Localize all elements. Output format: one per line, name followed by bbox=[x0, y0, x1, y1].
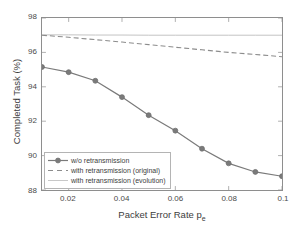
legend-label: with retransmission (original) bbox=[71, 166, 160, 175]
legend-swatch-solid-icon bbox=[47, 176, 69, 185]
data-point bbox=[42, 65, 44, 70]
data-point bbox=[173, 128, 178, 133]
legend-swatch-solid-marker-icon bbox=[47, 156, 69, 165]
y-axis-tick-label: 98 bbox=[11, 13, 37, 21]
data-point bbox=[226, 161, 231, 166]
data-point bbox=[66, 70, 71, 75]
chart-figure: 889092949698 0.020.040.060.080.1 Packet … bbox=[0, 0, 295, 232]
x-axis-tick-label: 0.02 bbox=[50, 195, 86, 203]
legend-item-wo-retransmission: w/o retransmission bbox=[47, 156, 167, 165]
data-point bbox=[120, 95, 125, 100]
y-axis-tick-label: 88 bbox=[11, 187, 37, 195]
x-axis-tick-label: 0.1 bbox=[265, 195, 295, 203]
x-axis-title-subscript: e bbox=[202, 215, 206, 222]
data-point bbox=[280, 174, 282, 179]
legend-label: with retransmission (evolution) bbox=[71, 176, 166, 185]
series-line-with-retransmission-original bbox=[42, 35, 282, 57]
data-point bbox=[200, 146, 205, 151]
x-axis-tick-label: 0.08 bbox=[211, 195, 247, 203]
data-point bbox=[253, 169, 258, 174]
legend-swatch-dashed-icon bbox=[47, 166, 69, 175]
x-axis-tick-label: 0.06 bbox=[157, 195, 193, 203]
data-point bbox=[93, 78, 98, 83]
legend-label: w/o retransmission bbox=[71, 156, 129, 165]
x-axis-title-text: Packet Error Rate p bbox=[118, 209, 201, 220]
chart-legend: w/o retransmission with retransmission (… bbox=[44, 152, 171, 189]
x-axis-title: Packet Error Rate pe bbox=[41, 209, 283, 224]
y-axis-title: Completed Task (%) bbox=[11, 22, 22, 182]
legend-item-with-retransmission-evolution: with retransmission (evolution) bbox=[47, 176, 167, 185]
legend-item-with-retransmission-original: with retransmission (original) bbox=[47, 166, 167, 175]
x-axis-tick-label: 0.04 bbox=[104, 195, 140, 203]
data-point bbox=[146, 113, 151, 118]
